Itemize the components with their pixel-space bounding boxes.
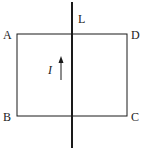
- diagram-canvas: A D B C L I: [0, 0, 144, 159]
- current-arrow-icon: [59, 56, 64, 80]
- label-d: D: [131, 28, 140, 42]
- label-l: L: [78, 12, 85, 26]
- label-c: C: [131, 110, 139, 124]
- label-a: A: [3, 28, 12, 42]
- label-current-i: I: [47, 63, 53, 77]
- label-b: B: [3, 110, 11, 124]
